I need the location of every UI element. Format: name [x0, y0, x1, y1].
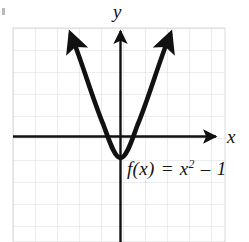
- function-name: f(x): [127, 158, 155, 179]
- graph-figure: y x f(x) = x2 – 1: [0, 0, 249, 242]
- constant-one: 1: [217, 158, 227, 179]
- function-equation-label: f(x) = x2 – 1: [127, 159, 226, 178]
- equals-sign: =: [155, 158, 180, 179]
- exponent-two: 2: [189, 158, 195, 171]
- grid-lines: [13, 28, 225, 242]
- y-axis-label: y: [113, 2, 121, 21]
- x-axis-label: x: [227, 127, 235, 146]
- variable-x: x: [180, 158, 189, 179]
- coordinate-plane: [0, 0, 249, 242]
- minus-sign: –: [195, 158, 217, 179]
